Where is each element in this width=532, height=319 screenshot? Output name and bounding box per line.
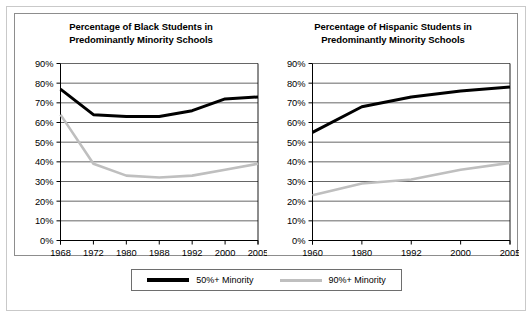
y-axis-tick-label: 90%	[287, 59, 306, 69]
plot-area-black-students: 0%10%20%30%40%50%60%70%80%90%19681972198…	[15, 14, 267, 257]
data-series-line	[313, 163, 511, 195]
plot-svg-black-students: 0%10%20%30%40%50%60%70%80%90%19681972198…	[15, 14, 267, 257]
y-axis-tick-label: 80%	[287, 79, 306, 89]
y-axis-tick-label: 70%	[287, 98, 306, 108]
legend-entry-90-minority: 90%+ Minority	[280, 275, 386, 285]
y-axis-tick-label: 10%	[287, 216, 306, 226]
x-axis-tick-label: 1988	[149, 248, 170, 258]
x-axis-tick-label: 1972	[83, 248, 104, 258]
y-axis-tick-label: 90%	[35, 59, 54, 69]
x-axis-tick-label: 1960	[302, 248, 323, 258]
y-axis-tick-label: 60%	[287, 118, 306, 128]
plot-svg-hispanic-students: 0%10%20%30%40%50%60%70%80%90%19601980199…	[267, 14, 519, 257]
y-axis-tick-label: 20%	[35, 197, 54, 207]
x-axis-tick-label: 1980	[352, 248, 373, 258]
data-series-line	[61, 115, 259, 178]
legend-line-swatch-icon	[280, 279, 322, 282]
x-axis-tick-label: 1992	[182, 248, 203, 258]
x-axis-tick-label: 1992	[401, 248, 422, 258]
y-axis-tick-label: 30%	[35, 177, 54, 187]
x-axis-tick-label: 2005	[248, 248, 267, 258]
legend-entry-50-minority: 50%+ Minority	[147, 275, 253, 285]
y-axis-tick-label: 50%	[287, 138, 306, 148]
x-axis-tick-label: 2005	[500, 248, 519, 258]
y-axis-tick-label: 30%	[287, 177, 306, 187]
y-axis-tick-label: 70%	[35, 98, 54, 108]
figure-root: Percentage of Black Students in Predomin…	[0, 0, 532, 319]
legend-label-90-minority: 90%+ Minority	[329, 275, 386, 285]
x-axis-tick-label: 2000	[215, 248, 236, 258]
chart-hispanic-students: Percentage of Hispanic Students in Predo…	[267, 14, 519, 257]
x-axis-tick-label: 1980	[116, 248, 137, 258]
legend-label-50-minority: 50%+ Minority	[196, 275, 253, 285]
legend-line-swatch-icon	[147, 278, 189, 282]
y-axis-tick-label: 80%	[35, 79, 54, 89]
charts-panel: Percentage of Black Students in Predomin…	[14, 13, 518, 256]
plot-area-hispanic-students: 0%10%20%30%40%50%60%70%80%90%19601980199…	[267, 14, 519, 257]
x-axis-tick-label: 2000	[450, 248, 471, 258]
y-axis-tick-label: 40%	[287, 157, 306, 167]
y-axis-tick-label: 0%	[292, 236, 305, 246]
chart-legend: 50%+ Minority 90%+ Minority	[131, 269, 402, 291]
y-axis-tick-label: 40%	[35, 157, 54, 167]
data-series-line	[313, 87, 511, 132]
chart-black-students: Percentage of Black Students in Predomin…	[15, 14, 267, 257]
x-axis-tick-label: 1968	[50, 248, 71, 258]
y-axis-tick-label: 0%	[40, 236, 53, 246]
y-axis-tick-label: 60%	[35, 118, 54, 128]
y-axis-tick-label: 10%	[35, 216, 54, 226]
y-axis-tick-label: 50%	[35, 138, 54, 148]
y-axis-tick-label: 20%	[287, 197, 306, 207]
